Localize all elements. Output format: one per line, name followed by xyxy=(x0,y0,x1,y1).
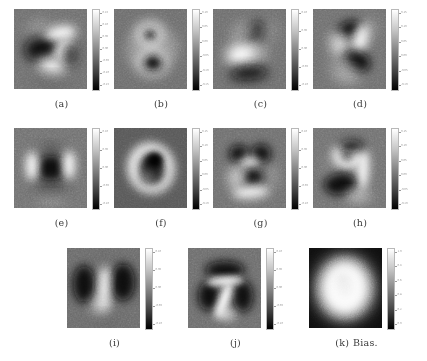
colorbar-gradient-j xyxy=(266,248,274,330)
colorbar-tick-label: -0.05 xyxy=(401,188,408,191)
colorbar-gradient-h xyxy=(391,128,399,210)
colorbar-tick-label: 0.15 xyxy=(401,131,407,134)
colorbar-tick-label: 0.15 xyxy=(103,12,109,15)
panel-caption-c: (c) xyxy=(254,98,267,109)
panel-caption-label: (b) xyxy=(154,98,168,109)
colorbar-tick-label: -0.10 xyxy=(202,203,209,206)
panel-body-f: 0.150.100.050.00-0.05-0.10 xyxy=(114,128,209,210)
colorbar-ticks-f: 0.150.100.050.00-0.05-0.10 xyxy=(200,128,209,208)
colorbar-tick-label: 0.05 xyxy=(156,269,162,272)
colorbar-h: 0.150.100.050.00-0.05-0.10 xyxy=(391,128,408,210)
colorbar-gradient-f xyxy=(192,128,200,210)
colorbar-gradient-d xyxy=(391,9,399,91)
colorbar-tick-label: -0.05 xyxy=(202,188,209,191)
colorbar-ticks-j: 0.100.050.00-0.05-0.10 xyxy=(274,248,283,328)
colorbar-tick-label: -0.05 xyxy=(302,185,309,188)
colorbar-tick-label: 0.05 xyxy=(302,149,308,152)
panel-body-j: 0.100.050.00-0.05-0.10 xyxy=(188,248,283,330)
colorbar-gradient-i xyxy=(145,248,153,330)
panel-caption-label: (a) xyxy=(55,98,69,109)
colorbar-tick-label: 0.10 xyxy=(302,12,308,15)
colorbar-tick-label: -0.15 xyxy=(202,84,209,87)
colorbar-tick-label: -0.05 xyxy=(103,60,110,63)
figure-panel-g: 0.100.050.00-0.05-0.10(g) xyxy=(213,128,308,228)
panel-caption-j: (j) xyxy=(230,337,241,348)
colorbar-tick-label: -0.10 xyxy=(401,84,408,87)
colorbar-tick-label: 0.4 xyxy=(398,294,402,297)
panel-body-e: 0.100.050.00-0.05-0.10 xyxy=(14,128,109,210)
colorbar-tick-label: 0.10 xyxy=(302,131,308,134)
colorbar-tick-label: 0.05 xyxy=(302,30,308,33)
colorbar-tick-label: -0.05 xyxy=(302,66,309,69)
colorbar-tick-label: 0.10 xyxy=(103,131,109,134)
colorbar-ticks-h: 0.150.100.050.00-0.05-0.10 xyxy=(399,128,408,208)
colorbar-tick-label: -0.05 xyxy=(401,69,408,72)
figure-panel-e: 0.100.050.00-0.05-0.10(e) xyxy=(14,128,109,228)
colorbar-gradient-b xyxy=(192,9,200,91)
panel-caption-label: (d) xyxy=(353,98,367,109)
figure-row-1: 0.150.100.050.00-0.05-0.10-0.15(a)0.100.… xyxy=(0,9,427,109)
colorbar-gradient-c xyxy=(291,9,299,91)
colorbar-c: 0.100.050.00-0.05-0.10 xyxy=(291,9,308,91)
heatmap-a xyxy=(14,9,87,89)
panel-caption-label: (c) xyxy=(254,98,267,109)
colorbar-tick-label: 0.00 xyxy=(103,48,109,51)
panel-caption-d: (d) xyxy=(353,98,367,109)
colorbar-tick-label: 0.6 xyxy=(398,279,402,282)
panel-body-a: 0.150.100.050.00-0.05-0.10-0.15 xyxy=(14,9,109,91)
panel-body-i: 0.100.050.00-0.05-0.10 xyxy=(67,248,162,330)
colorbar-d: 0.150.100.050.00-0.05-0.10 xyxy=(391,9,408,91)
colorbar-tick-label: 0.05 xyxy=(202,159,208,162)
colorbar-tick-label: -0.10 xyxy=(202,69,209,72)
figure-panel-h: 0.150.100.050.00-0.05-0.10(h) xyxy=(313,128,408,228)
panel-body-g: 0.100.050.00-0.05-0.10 xyxy=(213,128,308,210)
panel-caption-label: (k) xyxy=(335,337,349,348)
colorbar-ticks-k: 1.00.80.60.40.20.0 xyxy=(395,248,404,328)
panel-caption-e: (e) xyxy=(55,217,69,228)
colorbar-tick-label: 0.15 xyxy=(401,12,407,15)
colorbar-tick-label: 0.10 xyxy=(202,145,208,148)
colorbar-ticks-a: 0.150.100.050.00-0.05-0.10-0.15 xyxy=(100,9,109,89)
colorbar-gradient-e xyxy=(92,128,100,210)
colorbar-tick-label: 0.10 xyxy=(156,251,162,254)
colorbar-tick-label: -0.05 xyxy=(277,305,284,308)
panel-caption-b: (b) xyxy=(154,98,168,109)
panel-caption-label: (h) xyxy=(353,217,367,228)
colorbar-ticks-e: 0.100.050.00-0.05-0.10 xyxy=(100,128,109,208)
figure-panel-a: 0.150.100.050.00-0.05-0.10-0.15(a) xyxy=(14,9,109,109)
heatmap-h xyxy=(313,128,386,208)
colorbar-ticks-i: 0.100.050.00-0.05-0.10 xyxy=(153,248,162,328)
heatmap-d xyxy=(313,9,386,89)
panel-caption-label: (i) xyxy=(109,337,120,348)
colorbar-tick-label: -0.05 xyxy=(202,55,209,58)
panel-caption-name: Bias. xyxy=(353,337,378,348)
colorbar-tick-label: -0.10 xyxy=(401,203,408,206)
figure-panel-f: 0.150.100.050.00-0.05-0.10(f) xyxy=(114,128,209,228)
colorbar-g: 0.100.050.00-0.05-0.10 xyxy=(291,128,308,210)
colorbar-tick-label: 0.05 xyxy=(103,36,109,39)
colorbar-tick-label: 0.8 xyxy=(398,265,402,268)
colorbar-a: 0.150.100.050.00-0.05-0.10-0.15 xyxy=(92,9,109,91)
figure-panel-j: 0.100.050.00-0.05-0.10(j) xyxy=(188,248,283,348)
colorbar-ticks-g: 0.100.050.00-0.05-0.10 xyxy=(299,128,308,208)
heatmap-b xyxy=(114,9,187,89)
heatmap-g xyxy=(213,128,286,208)
colorbar-tick-label: 0.10 xyxy=(401,26,407,29)
colorbar-tick-label: -0.10 xyxy=(103,72,110,75)
colorbar-tick-label: 0.05 xyxy=(401,159,407,162)
colorbar-tick-label: -0.10 xyxy=(103,203,110,206)
panel-caption-k: (k)Bias. xyxy=(335,337,377,348)
colorbar-i: 0.100.050.00-0.05-0.10 xyxy=(145,248,162,330)
figure-panel-c: 0.100.050.00-0.05-0.10(c) xyxy=(213,9,308,109)
panel-caption-i: (i) xyxy=(109,337,120,348)
colorbar-tick-label: -0.10 xyxy=(156,323,163,326)
colorbar-tick-label: 0.10 xyxy=(103,24,109,27)
colorbar-j: 0.100.050.00-0.05-0.10 xyxy=(266,248,283,330)
colorbar-k: 1.00.80.60.40.20.0 xyxy=(387,248,404,330)
colorbar-tick-label: 0.00 xyxy=(277,287,283,290)
colorbar-tick-label: 0.15 xyxy=(202,131,208,134)
colorbar-tick-label: -0.05 xyxy=(103,185,110,188)
colorbar-ticks-c: 0.100.050.00-0.05-0.10 xyxy=(299,9,308,89)
colorbar-tick-label: 0.05 xyxy=(103,149,109,152)
colorbar-tick-label: -0.10 xyxy=(302,84,309,87)
